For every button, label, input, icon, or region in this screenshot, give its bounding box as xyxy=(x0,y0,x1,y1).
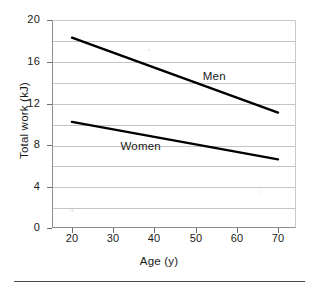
gridline-8 xyxy=(53,146,295,147)
x-tick-label-20: 20 xyxy=(52,233,92,244)
bottom-rule xyxy=(14,281,305,282)
scan-speckle xyxy=(148,49,150,51)
gridline-10 xyxy=(53,125,295,126)
y-tick-16 xyxy=(47,62,52,63)
y-tick-8 xyxy=(47,145,52,146)
scan-speckle xyxy=(258,191,260,193)
gridline-14 xyxy=(53,83,295,84)
series-label-men: Men xyxy=(203,70,226,82)
gridline-4 xyxy=(53,187,295,188)
x-tick-label-30: 30 xyxy=(93,233,133,244)
gridline-6 xyxy=(53,166,295,167)
plot-area xyxy=(52,20,296,228)
chart-figure: 20 16 12 8 4 0 20 30 40 50 60 70 Men Wom… xyxy=(0,0,318,290)
y-tick-label-20: 20 xyxy=(0,14,40,25)
scan-speckle xyxy=(71,209,74,212)
gridline-12 xyxy=(53,104,295,105)
x-tick-label-40: 40 xyxy=(134,233,174,244)
y-tick-20 xyxy=(47,20,52,21)
gridline-18 xyxy=(53,41,295,42)
y-tick-12 xyxy=(47,104,52,105)
x-axis-title: Age (y) xyxy=(0,255,318,268)
y-tick-0 xyxy=(47,228,52,229)
x-tick-label-50: 50 xyxy=(176,233,216,244)
y-tick-4 xyxy=(47,187,52,188)
x-tick-label-60: 60 xyxy=(217,233,257,244)
gridline-2 xyxy=(53,208,295,209)
y-axis-title: Total work (kJ) xyxy=(18,41,31,201)
y-tick-label-0: 0 xyxy=(0,222,40,233)
x-tick-label-70: 70 xyxy=(258,233,298,244)
gridline-16 xyxy=(53,62,295,63)
series-label-women: Women xyxy=(120,140,160,152)
